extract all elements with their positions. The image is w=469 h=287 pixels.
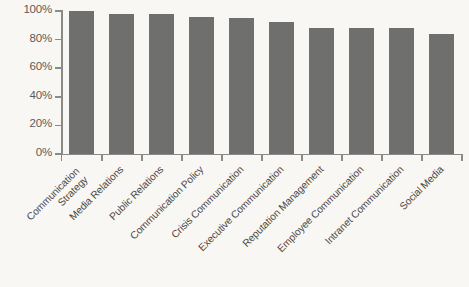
x-axis-tick (381, 154, 382, 161)
bar (389, 28, 414, 154)
x-axis-tick (261, 154, 262, 161)
y-axis-tick-label: 40% (0, 89, 52, 101)
x-axis-tick (421, 154, 422, 161)
y-axis-tick (55, 67, 62, 69)
x-axis-tick (461, 154, 462, 161)
bar-chart: 0%20%40%60%80%100% CommunicationStrategy… (0, 0, 469, 287)
x-axis-tick (61, 154, 62, 161)
y-axis-tick-label: 60% (0, 60, 52, 72)
bar (229, 18, 254, 154)
y-axis-tick-label: 0% (0, 146, 52, 158)
bar (349, 28, 374, 154)
bar (149, 14, 174, 154)
x-axis-tick (141, 154, 142, 161)
x-axis-tick (341, 154, 342, 161)
bar (429, 34, 454, 154)
x-axis-tick (301, 154, 302, 161)
bar (189, 17, 214, 154)
y-axis-tick-label: 20% (0, 117, 52, 129)
y-axis-tick (55, 10, 62, 12)
x-axis-tick (101, 154, 102, 161)
y-axis-tick (55, 125, 62, 127)
bar (109, 14, 134, 154)
bar (269, 22, 294, 154)
y-axis-tick-label: 80% (0, 32, 52, 44)
bar (309, 28, 334, 154)
x-axis-tick (221, 154, 222, 161)
x-axis-tick (181, 154, 182, 161)
y-axis-tick (55, 96, 62, 98)
bar (69, 11, 94, 154)
plot-area (62, 11, 462, 154)
y-axis-tick-label: 100% (0, 3, 52, 15)
y-axis-tick (55, 39, 62, 41)
